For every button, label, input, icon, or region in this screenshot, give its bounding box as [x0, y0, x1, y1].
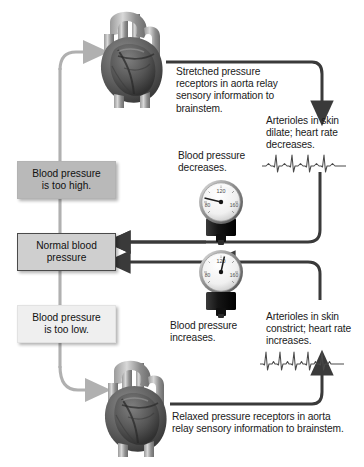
label-relaxed-receptors: Relaxed pressure receptors in aorta rela…	[172, 411, 354, 435]
gauge-left-value: 80	[205, 272, 211, 278]
heart-top	[88, 6, 174, 110]
ecg-fast	[260, 348, 344, 374]
label-arterioles-constrict: Arterioles in skin constrict; heart rate…	[266, 311, 362, 348]
gauge-top-value: 120	[217, 188, 226, 194]
gauge-left-value: 80	[205, 202, 211, 208]
heart-bottom	[92, 355, 178, 459]
state-box-too-low[interactable]: Blood pressure is too low.	[17, 305, 116, 343]
label-arterioles-dilate: Arterioles in skin dilate; heart rate de…	[266, 115, 362, 152]
label-stretched-receptors: Stretched pressure receptors in aorta re…	[176, 66, 286, 115]
state-box-too-high-label: Blood pressure is too high.	[32, 168, 101, 193]
state-box-normal[interactable]: Normal blood pressure	[17, 233, 116, 271]
gauge-right-value: 160	[230, 202, 239, 208]
label-bp-decreases: Blood pressure decreases.	[178, 150, 276, 174]
state-box-too-high[interactable]: Blood pressure is too high.	[17, 161, 116, 199]
state-box-too-low-label: Blood pressure is too low.	[32, 312, 101, 337]
path-heart-to-constrict	[170, 372, 322, 404]
state-box-normal-label: Normal blood pressure	[36, 240, 97, 265]
gauge-increasing: 120 80 160	[190, 248, 252, 318]
label-bp-increases: Blood pressure increases.	[170, 320, 268, 344]
gauge-decreasing: 120 80 160	[190, 178, 252, 246]
gauge-right-value: 160	[230, 272, 239, 278]
homeostasis-diagram: 120 80 160 120 80	[0, 0, 364, 467]
